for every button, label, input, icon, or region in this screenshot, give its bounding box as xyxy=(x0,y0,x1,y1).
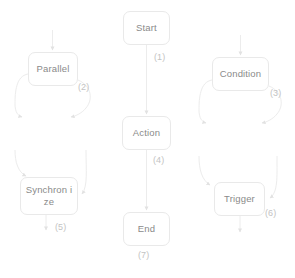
node-action[interactable]: Action xyxy=(122,116,171,150)
node-synchronize-label: Synchron ize xyxy=(21,184,77,208)
edge-merge-left-into-trigger xyxy=(199,156,210,185)
edge-parallel-fork-left xyxy=(15,74,28,117)
edge-merge-right-into-synchronize xyxy=(82,150,86,194)
node-synchronize[interactable]: Synchron ize xyxy=(20,177,78,215)
node-start-label: Start xyxy=(133,22,160,34)
node-action-label: Action xyxy=(130,127,163,139)
edge-label-6: (6) xyxy=(265,208,276,219)
edge-label-7: (7) xyxy=(138,250,149,261)
node-parallel[interactable]: Parallel xyxy=(28,52,78,86)
node-end-label: End xyxy=(135,223,158,235)
node-start[interactable]: Start xyxy=(123,11,170,45)
node-parallel-label: Parallel xyxy=(34,63,73,75)
edge-label-3: (3) xyxy=(270,88,281,99)
node-trigger[interactable]: Trigger xyxy=(214,182,265,216)
edge-condition-fork-left xyxy=(199,80,212,123)
flowchart-canvas: Start Parallel Condition Action Synchron… xyxy=(0,0,295,278)
edge-label-1: (1) xyxy=(154,52,165,63)
node-end[interactable]: End xyxy=(123,212,170,246)
edge-label-2: (2) xyxy=(78,82,89,93)
edge-label-4: (4) xyxy=(153,155,164,166)
node-condition-label: Condition xyxy=(217,68,265,80)
edge-merge-right-into-trigger xyxy=(270,156,277,198)
edge-label-5: (5) xyxy=(55,222,66,233)
edge-merge-left-into-synchronize xyxy=(15,150,26,176)
node-condition[interactable]: Condition xyxy=(212,57,269,91)
node-trigger-label: Trigger xyxy=(221,193,258,205)
